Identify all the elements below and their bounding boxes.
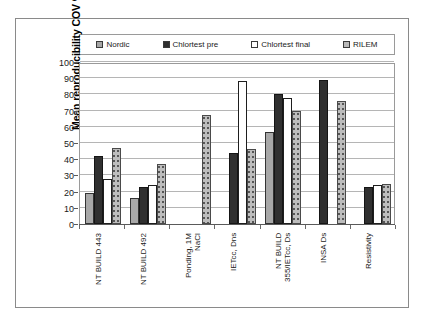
plot-area bbox=[79, 63, 395, 225]
legend-item-chlortest-pre[interactable]: Chlortest pre bbox=[163, 40, 219, 49]
y-tick-mark bbox=[74, 208, 78, 209]
bar-chlortest-final bbox=[148, 185, 157, 224]
legend-swatch-icon bbox=[251, 41, 258, 48]
bar-group bbox=[351, 64, 396, 224]
y-tick-mark bbox=[74, 62, 78, 63]
bar-chlortest-final bbox=[238, 81, 247, 224]
y-tick-mark bbox=[74, 159, 78, 160]
y-tick-mark bbox=[74, 94, 78, 95]
bar-rilem bbox=[382, 184, 391, 225]
bar-group bbox=[125, 64, 170, 224]
bar-nordic bbox=[265, 132, 274, 224]
y-tick-label: 100 bbox=[52, 59, 74, 68]
x-tick-label: Ponding, 1M NaCl bbox=[184, 233, 202, 319]
bar-rilem bbox=[247, 149, 256, 224]
y-tick-mark bbox=[74, 143, 78, 144]
y-tick-label: 70 bbox=[52, 108, 74, 117]
legend-swatch-icon bbox=[96, 41, 103, 48]
chart-legend: NordicChlortest preChlortest finalRILEM bbox=[79, 34, 395, 55]
bar-nordic bbox=[130, 198, 139, 224]
bar-chlortest-pre bbox=[229, 153, 238, 224]
legend-swatch-icon bbox=[343, 41, 350, 48]
x-axis-line bbox=[79, 224, 395, 225]
x-tick-label: IETcc, Dns bbox=[229, 233, 238, 319]
y-tick-label: 20 bbox=[52, 189, 74, 198]
bar-rilem bbox=[337, 101, 346, 224]
legend-item-label: Chlortest pre bbox=[173, 40, 219, 49]
y-tick-label: 10 bbox=[52, 205, 74, 214]
bar-chlortest-final bbox=[283, 98, 292, 224]
y-tick-mark bbox=[74, 127, 78, 128]
y-tick-mark bbox=[74, 192, 78, 193]
plot-inner bbox=[80, 64, 394, 224]
bar-rilem bbox=[157, 164, 166, 224]
x-tick-label: Resistivity bbox=[364, 233, 373, 319]
legend-item-chlortest-final[interactable]: Chlortest final bbox=[251, 40, 310, 49]
x-tick-mark bbox=[395, 225, 396, 229]
x-tick-label: NT BUILD 492 bbox=[139, 233, 148, 319]
bar-chlortest-pre bbox=[319, 80, 328, 224]
y-tick-mark bbox=[74, 78, 78, 79]
bar-group bbox=[306, 64, 351, 224]
bar-chlortest-pre bbox=[94, 156, 103, 224]
y-tick-mark bbox=[74, 111, 78, 112]
bar-group bbox=[261, 64, 306, 224]
bar-chlortest-final bbox=[103, 179, 112, 224]
x-tick-mark bbox=[305, 225, 306, 229]
bar-rilem bbox=[292, 111, 301, 224]
bar-chlortest-final bbox=[373, 185, 382, 224]
legend-item-label: RILEM bbox=[353, 40, 377, 49]
y-tick-label: 30 bbox=[52, 172, 74, 181]
x-tick-mark bbox=[350, 225, 351, 229]
bar-chlortest-pre bbox=[139, 187, 148, 224]
x-tick-label: NT BUILD 355/IETcc, Ds bbox=[274, 233, 292, 319]
x-tick-mark bbox=[124, 225, 125, 229]
legend-item-label: Nordic bbox=[106, 40, 129, 49]
bar-nordic bbox=[85, 193, 94, 224]
legend-item-label: Chlortest final bbox=[261, 40, 310, 49]
bar-group bbox=[170, 64, 215, 224]
x-tick-mark bbox=[79, 225, 80, 229]
y-tick-label: 0 bbox=[52, 221, 74, 230]
x-tick-label: INSA Ds bbox=[319, 233, 328, 319]
bar-chlortest-pre bbox=[274, 94, 283, 224]
legend-item-nordic[interactable]: Nordic bbox=[96, 40, 129, 49]
y-tick-label: 50 bbox=[52, 140, 74, 149]
bar-rilem bbox=[202, 115, 211, 224]
x-tick-mark bbox=[169, 225, 170, 229]
bar-rilem bbox=[112, 148, 121, 224]
y-tick-label: 80 bbox=[52, 91, 74, 100]
y-tick-label: 40 bbox=[52, 156, 74, 165]
y-tick-label: 60 bbox=[52, 124, 74, 133]
x-tick-mark bbox=[214, 225, 215, 229]
bar-group bbox=[80, 64, 125, 224]
legend-swatch-icon bbox=[163, 41, 170, 48]
x-tick-mark bbox=[260, 225, 261, 229]
chart-frame: NordicChlortest preChlortest finalRILEM … bbox=[15, 18, 409, 308]
gridline bbox=[80, 61, 394, 62]
bar-group bbox=[215, 64, 260, 224]
bar-chlortest-pre bbox=[364, 187, 373, 224]
y-tick-mark bbox=[74, 224, 78, 225]
y-tick-label: 90 bbox=[52, 75, 74, 84]
y-axis-ticks: 0102030405060708090100 bbox=[48, 63, 74, 225]
legend-item-rilem[interactable]: RILEM bbox=[343, 40, 377, 49]
y-tick-mark bbox=[74, 175, 78, 176]
x-tick-label: NT BUILD 443 bbox=[94, 233, 103, 319]
